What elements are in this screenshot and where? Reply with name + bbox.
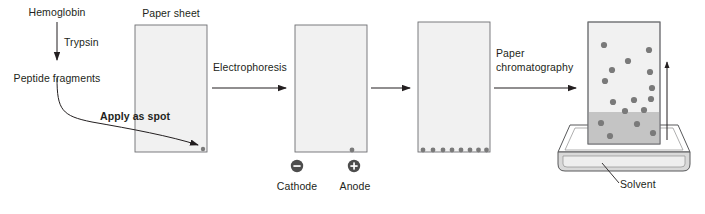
sample-spot [201, 147, 205, 151]
anode-icon [348, 160, 360, 172]
hemoglobin-label: Hemoglobin [28, 6, 85, 18]
stage-3-separated-sheet [418, 22, 490, 152]
electrophoresis-sheet-rect [295, 25, 367, 152]
solvent-front-band [589, 112, 660, 144]
tray-front-lip [558, 152, 690, 171]
stage-4-chromatography-apparatus [558, 22, 690, 183]
electrophoresis-label: Electrophoresis [213, 61, 287, 73]
paper-chromatography-label-line1: Paper [496, 47, 525, 59]
cathode-label: Cathode [277, 180, 317, 192]
loaded-spot [350, 148, 355, 153]
stage-2-electrophoresis-sheet [295, 25, 367, 152]
anode-label: Anode [340, 180, 371, 192]
apply-as-spot-label: Apply as spot [100, 110, 170, 122]
paper-sheet-label: Paper sheet [142, 7, 200, 19]
peptide-fragments-label: Peptide fragments [14, 72, 101, 84]
separated-sheet-rect [418, 22, 490, 152]
solvent-label: Solvent [620, 178, 656, 190]
stage-1-paper-sheet [135, 25, 207, 152]
trypsin-label: Trypsin [64, 36, 99, 48]
paper-sheet-rect [135, 25, 207, 152]
cathode-icon [291, 160, 303, 172]
peptide-fingerprinting-diagram: Hemoglobin Trypsin Peptide fragments App… [0, 0, 705, 214]
paper-chromatography-label-line2: chromatography [496, 61, 573, 73]
